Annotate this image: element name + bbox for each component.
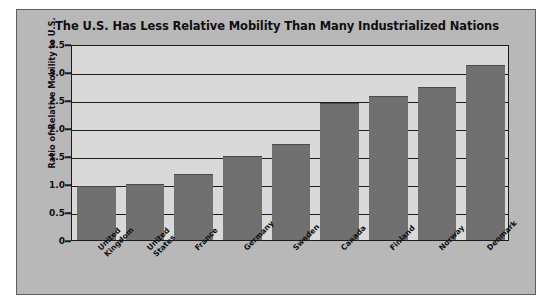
bar bbox=[418, 87, 457, 240]
y-tick-label: 0 bbox=[25, 236, 65, 246]
y-tick-label: 2.5 bbox=[25, 96, 65, 106]
y-tick-label: 1.0 bbox=[25, 180, 65, 190]
gridline bbox=[72, 74, 508, 75]
bar bbox=[369, 96, 408, 240]
bar bbox=[272, 144, 311, 240]
y-tick-label: 1.5 bbox=[25, 152, 65, 162]
bar bbox=[223, 156, 262, 240]
chart-panel: The U.S. Has Less Relative Mobility Than… bbox=[16, 9, 536, 295]
bar bbox=[466, 65, 505, 240]
y-tick-label: 0.5 bbox=[25, 208, 65, 218]
y-tick-label: 3.5 bbox=[25, 40, 65, 50]
y-axis-title: Ratio of Relative Mobility to U.S. bbox=[47, 13, 57, 173]
y-tick-label: 2.0 bbox=[25, 124, 65, 134]
plot-area bbox=[71, 45, 509, 241]
chart-title: The U.S. Has Less Relative Mobility Than… bbox=[17, 19, 537, 33]
y-tick-label: 3.0 bbox=[25, 68, 65, 78]
bar bbox=[320, 103, 359, 240]
